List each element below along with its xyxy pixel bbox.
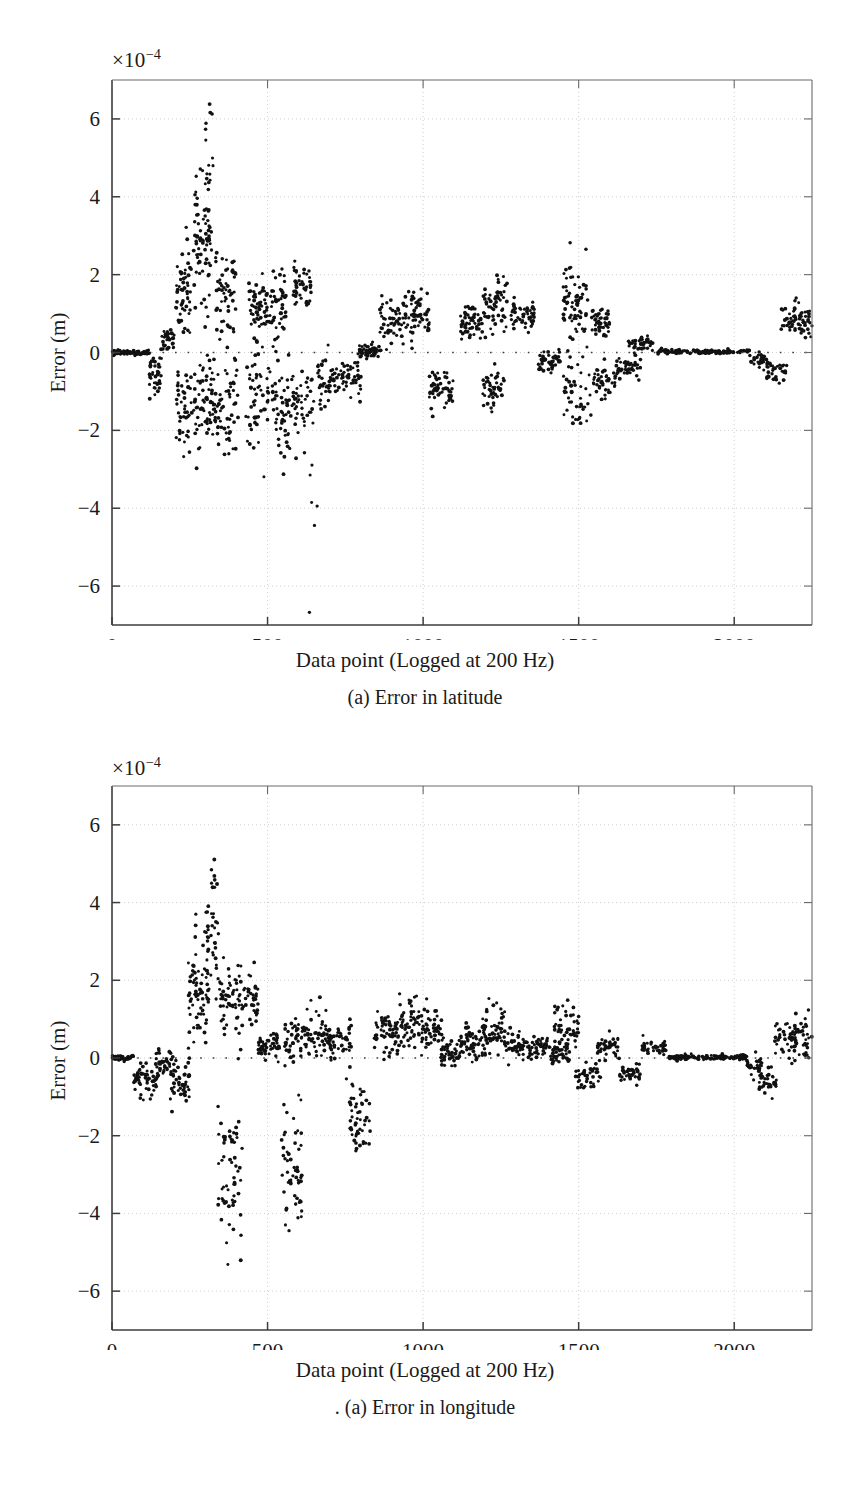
y-tick-label: −6 xyxy=(78,1279,100,1303)
x-tick-label: 2000 xyxy=(713,634,755,640)
y-tick-label: −2 xyxy=(78,1124,100,1148)
y-tick-label: 2 xyxy=(90,263,101,287)
plot-canvas-latitude: −6−4−202460500100015002000 xyxy=(0,0,850,640)
plot-canvas-longitude: −6−4−202460500100015002000 xyxy=(0,730,850,1350)
axis-ticks: −6−4−202460500100015002000 xyxy=(78,80,812,640)
y-tick-label: 6 xyxy=(90,107,101,131)
figure-page: ×10−4 Error (m) −6−4−2024605001000150020… xyxy=(0,0,850,1489)
data-points xyxy=(111,858,814,1266)
x-tick-label: 2000 xyxy=(713,1339,755,1350)
panel-longitude: ×10−4 Error (m) −6−4−2024605001000150020… xyxy=(0,730,850,1460)
x-tick-label: 1000 xyxy=(402,1339,444,1350)
y-tick-label: −6 xyxy=(78,574,100,598)
x-axis-title: Data point (Logged at 200 Hz) xyxy=(0,1358,850,1383)
axis-ticks: −6−4−202460500100015002000 xyxy=(78,786,812,1350)
y-tick-label: −4 xyxy=(78,496,101,520)
y-tick-label: 0 xyxy=(90,341,101,365)
y-tick-label: −2 xyxy=(78,418,100,442)
scatter-plot-latitude: −6−4−202460500100015002000 xyxy=(0,0,850,640)
panel-caption: (a) Error in latitude xyxy=(0,686,850,709)
panel-latitude: ×10−4 Error (m) −6−4−2024605001000150020… xyxy=(0,0,850,720)
y-tick-label: 2 xyxy=(90,968,101,992)
y-tick-label: −4 xyxy=(78,1201,101,1225)
y-tick-label: 4 xyxy=(90,185,101,209)
x-axis-title: Data point (Logged at 200 Hz) xyxy=(0,648,850,673)
y-tick-label: 4 xyxy=(90,891,101,915)
x-tick-label: 500 xyxy=(252,1339,284,1350)
y-tick-label: 6 xyxy=(90,813,101,837)
x-tick-label: 0 xyxy=(107,1339,118,1350)
panel-caption: . (a) Error in longitude xyxy=(0,1396,850,1419)
data-points xyxy=(111,102,814,614)
y-tick-label: 0 xyxy=(90,1046,101,1070)
x-tick-label: 1500 xyxy=(558,1339,600,1350)
scatter-plot-longitude: −6−4−202460500100015002000 xyxy=(0,730,850,1350)
x-tick-label: 1500 xyxy=(558,634,600,640)
x-tick-label: 500 xyxy=(252,634,284,640)
x-tick-label: 0 xyxy=(107,634,118,640)
x-tick-label: 1000 xyxy=(402,634,444,640)
